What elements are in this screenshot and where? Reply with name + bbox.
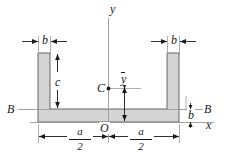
dimension-label-a-half-left: a 2	[67, 126, 93, 152]
dimension-label-b-right: b	[170, 34, 178, 46]
section-label-b-left: B	[6, 103, 15, 115]
dimension-label-b-base: b	[187, 109, 195, 121]
figure-canvas: y x O C y b b c b B B a 2 a 2	[0, 0, 225, 159]
axis-label-x: x	[206, 119, 211, 131]
axis-label-y: y	[110, 3, 115, 15]
ybar-label: y	[120, 73, 127, 85]
section-label-b-right: B	[203, 103, 212, 115]
dimension-label-a-half-right: a 2	[128, 126, 154, 152]
section-drawing	[0, 0, 225, 159]
dimension-label-c: c	[54, 76, 61, 88]
dimension-label-b-left: b	[41, 34, 49, 46]
centroid-label: C	[96, 82, 106, 94]
origin-label: O	[99, 122, 110, 134]
centroid-marker	[107, 87, 111, 91]
